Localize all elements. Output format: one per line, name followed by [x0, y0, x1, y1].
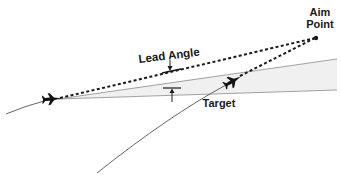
- aim-point-dot: [314, 36, 318, 40]
- attacker-flight-path: [6, 101, 44, 114]
- aim-point-label-line1: Aim: [310, 6, 331, 18]
- target-label: Target: [203, 97, 236, 109]
- aim-point-label-line2: Point: [306, 18, 334, 30]
- lead-pursuit-diagram: Lead Angle Aim Point Target: [0, 0, 341, 179]
- lead-angle-label: Lead Angle: [138, 46, 201, 65]
- diagram-svg: Lead Angle Aim Point Target: [0, 0, 341, 179]
- attacker-aircraft-icon: [42, 92, 62, 105]
